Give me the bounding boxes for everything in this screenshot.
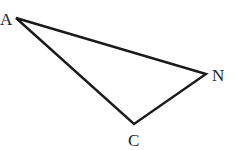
vertex-label-a: A — [0, 10, 13, 29]
triangle-diagram: A N C — [0, 0, 252, 150]
triangle-anc — [16, 18, 206, 124]
vertex-label-c: C — [128, 131, 139, 150]
vertex-label-n: N — [212, 66, 224, 85]
